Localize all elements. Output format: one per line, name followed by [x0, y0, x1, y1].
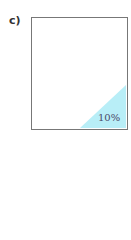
percentage-label: 10%: [98, 112, 120, 123]
